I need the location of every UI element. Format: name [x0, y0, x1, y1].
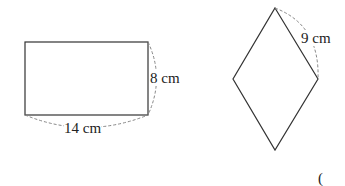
rectangle-shape	[25, 42, 148, 115]
rectangle-height-label: 8 cm	[150, 70, 180, 86]
rectangle-width-label: 14 cm	[64, 120, 101, 136]
figures-canvas	[0, 0, 345, 186]
answer-bracket: (	[318, 170, 323, 186]
rhombus-side-label: 9 cm	[301, 30, 331, 46]
